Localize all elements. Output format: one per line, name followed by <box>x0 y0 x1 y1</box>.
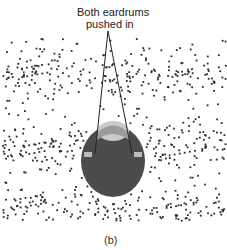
left-ear <box>84 152 92 157</box>
sound-wave-diagram <box>0 0 227 250</box>
right-ear <box>134 152 142 157</box>
annotation-line-1: Both eardrums <box>77 6 149 18</box>
annotation-line-2: pushed in <box>77 18 149 30</box>
figure-caption: (b) <box>104 234 117 246</box>
annotation-label: Both eardrums pushed in <box>77 6 149 30</box>
head-top-view <box>81 121 145 197</box>
